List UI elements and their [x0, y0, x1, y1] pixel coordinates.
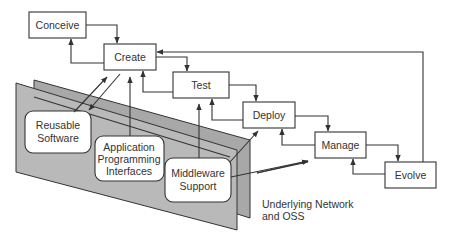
stage-test: Test — [173, 72, 229, 98]
stage-test-label: Test — [191, 79, 210, 91]
component-api: Application Programming Interfaces — [95, 136, 164, 181]
stage-conceive-label: Conceive — [36, 19, 80, 31]
arrow-manage-to-deploy — [282, 129, 315, 145]
stage-deploy: Deploy — [243, 102, 295, 128]
arrow-evolve-to-manage — [353, 159, 385, 174]
arrow-deploy-to-test — [212, 99, 243, 120]
reusable-label-line1: Reusable — [36, 119, 81, 131]
arrow-platform-to-manage — [257, 161, 308, 173]
stage-deploy-label: Deploy — [253, 109, 286, 121]
platform-label-line1: Underlying Network — [262, 198, 354, 210]
stage-create-label: Create — [114, 51, 146, 63]
api-label-line1: Application — [103, 141, 155, 153]
component-middleware-support: Middleware Support — [165, 158, 231, 202]
arrow-create-to-conceive — [71, 39, 104, 63]
stage-evolve: Evolve — [385, 162, 436, 188]
stage-create: Create — [104, 44, 156, 70]
api-label-line3: Interfaces — [106, 165, 152, 177]
arrow-create-to-test — [156, 57, 187, 71]
stage-evolve-label: Evolve — [395, 169, 427, 181]
reusable-label-line2: Software — [37, 132, 79, 144]
arrow-conceive-to-create — [86, 25, 117, 43]
stage-manage: Manage — [315, 132, 366, 158]
stage-manage-label: Manage — [322, 139, 360, 151]
arrow-manage-to-evolve — [366, 145, 398, 161]
stage-conceive: Conceive — [29, 12, 86, 38]
arrow-deploy-to-manage — [295, 116, 328, 131]
arrow-test-to-deploy — [229, 85, 256, 101]
component-reusable-software: Reusable Software — [25, 111, 91, 153]
middleware-label-line1: Middleware — [171, 167, 225, 179]
platform-label-line2: and OSS — [262, 210, 305, 222]
api-label-line2: Programming — [97, 153, 160, 165]
service-lifecycle-diagram: Reusable Software Application Programmin… — [0, 0, 452, 250]
middleware-label-line2: Support — [180, 180, 217, 192]
arrow-test-to-create — [143, 71, 173, 92]
